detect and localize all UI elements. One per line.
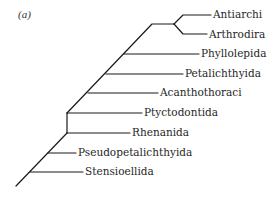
taxon-label-ptyctodontida: Ptyctodontida xyxy=(144,106,218,118)
panel-label: (a) xyxy=(18,8,31,21)
taxon-label-pseudopetalichthyida: Pseudopetalichthyida xyxy=(78,146,192,158)
cladogram-diagram: (a) Antiarchi Arthrodira Phyllolepida Pe… xyxy=(0,0,271,197)
taxon-label-stensioellida: Stensioellida xyxy=(85,165,154,177)
split-antiarchi xyxy=(174,15,211,24)
tree-branches xyxy=(16,15,211,186)
taxon-label-phyllolepida: Phyllolepida xyxy=(201,47,266,59)
taxon-label-petalichthyida: Petalichthyida xyxy=(185,67,261,79)
taxon-label-rhenanida: Rhenanida xyxy=(132,126,189,138)
split-arthrodira xyxy=(174,24,207,34)
root-stem xyxy=(16,133,67,186)
taxon-label-antiarchi: Antiarchi xyxy=(212,8,263,20)
upper-stem xyxy=(67,24,174,113)
taxon-label-arthrodira: Arthrodira xyxy=(208,28,265,40)
taxon-label-acanthothoraci: Acanthothoraci xyxy=(159,86,242,98)
